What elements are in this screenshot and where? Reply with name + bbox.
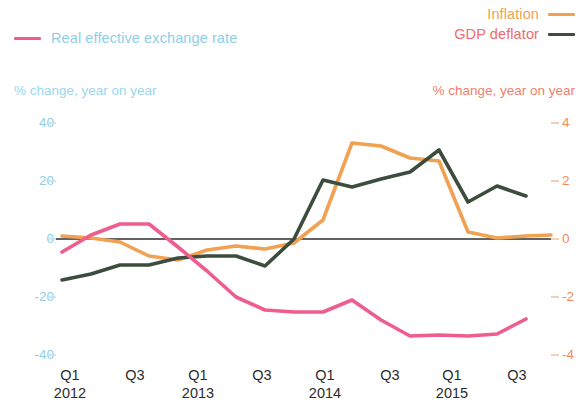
x-label-2-year: 2013 [172,384,224,402]
x-label-2-quarter: Q1 [172,366,224,384]
legend-label-deflator: GDP deflator [454,26,539,42]
legend-label-reer: Real effective exchange rate [51,30,237,46]
plot-area [0,108,585,356]
x-label-0-quarter: Q1 [44,366,96,384]
x-label-3: Q3 [236,366,288,384]
legend-item-reer: Real effective exchange rate [14,30,237,46]
series-line-inflation [62,143,551,260]
x-label-6-year: 2015 [426,384,478,402]
x-label-0: Q1 2012 [44,366,96,402]
x-label-4: Q1 2014 [299,366,351,402]
legend-item-inflation: Inflation [487,6,575,22]
x-label-7-quarter: Q3 [491,366,543,384]
x-label-4-year: 2014 [299,384,351,402]
left-axis-caption: % change, year on year [14,83,157,98]
legend-item-deflator: GDP deflator [454,26,575,42]
chart-container: Real effective exchange rate Inflation G… [0,0,585,413]
legend-swatch-deflator [548,33,575,36]
x-label-1-quarter: Q3 [109,366,161,384]
x-label-0-year: 2012 [44,384,96,402]
x-label-1: Q3 [109,366,161,384]
x-label-5-quarter: Q3 [364,366,416,384]
legend-label-inflation: Inflation [487,6,539,22]
left-tick-marks [48,123,56,355]
right-tick-marks [551,123,559,355]
legend-swatch-inflation [548,13,575,16]
x-label-6-quarter: Q1 [426,366,478,384]
legend-right-group: Inflation GDP deflator [454,6,575,42]
x-label-6: Q1 2015 [426,366,478,402]
x-label-2: Q1 2013 [172,366,224,402]
right-axis-caption: % change, year on year [432,83,575,98]
x-label-5: Q3 [364,366,416,384]
x-label-4-quarter: Q1 [299,366,351,384]
legend-swatch-reer [14,37,41,40]
series-line-deflator [62,150,526,280]
x-label-3-quarter: Q3 [236,366,288,384]
x-label-7: Q3 [491,366,543,384]
